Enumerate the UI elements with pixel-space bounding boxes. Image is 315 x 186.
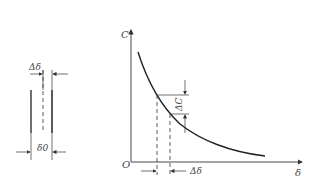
x-axis-label: δ bbox=[295, 167, 301, 178]
left-bottom-label: δ0 bbox=[37, 143, 48, 153]
left-top-label: Δδ bbox=[28, 62, 41, 72]
delta-c-label: ΔC bbox=[174, 98, 184, 112]
capacitor-gap-diagram: Δδ δ0 C δ O ΔC Δδ bbox=[0, 0, 315, 186]
origin-label: O bbox=[122, 159, 130, 170]
y-axis-label: C bbox=[121, 29, 129, 40]
x-delta-label: Δδ bbox=[189, 166, 202, 176]
left-plates-figure: Δδ δ0 bbox=[16, 62, 68, 160]
capacitance-chart: C δ O ΔC Δδ bbox=[121, 29, 302, 178]
